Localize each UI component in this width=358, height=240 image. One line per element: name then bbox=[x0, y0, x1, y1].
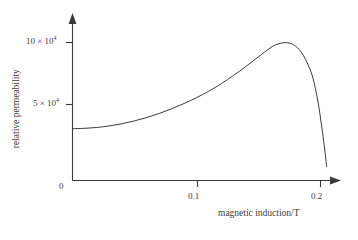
y-axis-tick-label-10: 10 × 104 bbox=[26, 37, 57, 46]
y-axis-title: relative permeability bbox=[12, 59, 22, 159]
x-axis-tick-label-0.1: 0.1 bbox=[188, 192, 199, 201]
x-axis-tick-label-0: 0 bbox=[59, 182, 64, 191]
x-axis-tick-label-0.2: 0.2 bbox=[311, 192, 322, 201]
y-axis-tick-label-5: 5 × 104 bbox=[33, 99, 59, 108]
x-axis-title: magnetic induction/T bbox=[218, 209, 300, 219]
